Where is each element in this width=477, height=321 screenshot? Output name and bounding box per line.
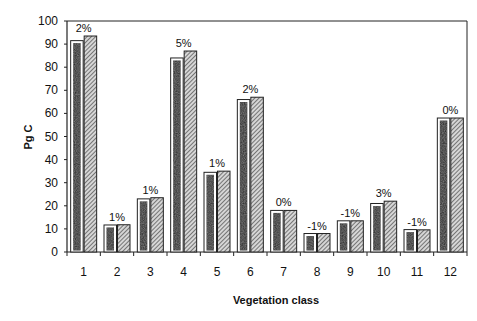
bar-group: 1% — [104, 211, 130, 252]
bar-series-b — [384, 201, 397, 252]
y-tick-label: 10 — [45, 222, 59, 236]
x-axis: 123456789101112 — [67, 252, 467, 279]
bar-group: 3% — [371, 187, 397, 252]
x-tick-label: 9 — [347, 265, 354, 279]
bar-change-label: -1% — [341, 207, 361, 219]
bar-series-a — [173, 60, 181, 250]
bar-series-a — [273, 213, 281, 251]
bar-series-a — [440, 121, 448, 251]
bar-series-b — [284, 210, 297, 252]
y-axis-title: Pg C — [22, 124, 34, 149]
x-tick-label: 6 — [247, 265, 254, 279]
y-tick-label: 30 — [45, 176, 59, 190]
bar-series-b — [184, 51, 197, 252]
y-axis: 0102030405060708090100 — [38, 14, 67, 259]
bar-change-label: 2% — [76, 22, 92, 34]
bar-change-label: 0% — [442, 104, 458, 116]
x-axis-title: Vegetation class — [233, 294, 319, 306]
x-tick-label: 7 — [280, 265, 287, 279]
y-tick-label: 70 — [45, 83, 59, 97]
bar-change-label: 2% — [242, 83, 258, 95]
bar-series-a — [107, 227, 115, 250]
y-tick-label: 40 — [45, 153, 59, 167]
x-tick-label: 8 — [314, 265, 321, 279]
x-tick-label: 3 — [147, 265, 154, 279]
bar-group: 1% — [204, 157, 230, 252]
y-tick-label: 20 — [45, 199, 59, 213]
bar-series-a — [373, 206, 381, 251]
y-tick-label: 90 — [45, 37, 59, 51]
x-tick-label: 10 — [377, 265, 391, 279]
bar-series-b — [118, 225, 131, 252]
bar-group: 5% — [171, 37, 197, 252]
bar-group: -1% — [404, 216, 430, 252]
bar-group: 1% — [137, 184, 163, 252]
bar-series-b — [318, 234, 331, 252]
bar-series-b — [351, 221, 364, 252]
y-tick-label: 100 — [38, 14, 58, 28]
bar-series-a — [140, 201, 148, 250]
bar-series-a — [340, 223, 348, 250]
bar-change-label: -1% — [307, 220, 327, 232]
bars: 2%1%1%5%1%2%0%-1%-1%3%-1%0% — [71, 22, 464, 252]
bar-chart: 0102030405060708090100 123456789101112 2… — [0, 0, 477, 321]
y-tick-label: 80 — [45, 60, 59, 74]
bar-series-b — [151, 198, 164, 252]
x-tick-label: 1 — [80, 265, 87, 279]
x-tick-label: 12 — [444, 265, 458, 279]
bar-series-b — [84, 36, 97, 252]
x-tick-label: 11 — [411, 265, 424, 279]
bar-change-label: 1% — [109, 211, 125, 223]
bar-group: -1% — [304, 220, 330, 252]
bar-series-a — [240, 102, 248, 250]
bar-series-a — [207, 175, 215, 251]
bar-series-a — [73, 43, 81, 250]
bar-series-a — [307, 236, 315, 250]
bar-series-b — [218, 171, 231, 252]
bar-change-label: 5% — [176, 37, 192, 49]
bar-series-b — [451, 118, 464, 252]
bar-series-b — [251, 97, 263, 252]
bar-group: 0% — [271, 196, 297, 252]
bar-group: 2% — [71, 22, 97, 252]
bar-group: 0% — [437, 104, 463, 252]
y-tick-label: 60 — [45, 106, 59, 120]
x-tick-label: 5 — [214, 265, 221, 279]
bar-group: -1% — [337, 207, 363, 252]
bar-series-a — [407, 232, 415, 250]
bar-change-label: 3% — [376, 187, 392, 199]
bar-change-label: 0% — [276, 196, 292, 208]
bar-change-label: -1% — [407, 216, 427, 228]
bar-change-label: 1% — [209, 157, 225, 169]
bar-series-b — [418, 230, 431, 252]
x-tick-label: 4 — [180, 265, 187, 279]
x-tick-label: 2 — [114, 265, 121, 279]
y-tick-label: 50 — [45, 130, 59, 144]
y-tick-label: 0 — [51, 245, 58, 259]
bar-change-label: 1% — [142, 184, 158, 196]
bar-group: 2% — [237, 83, 263, 252]
